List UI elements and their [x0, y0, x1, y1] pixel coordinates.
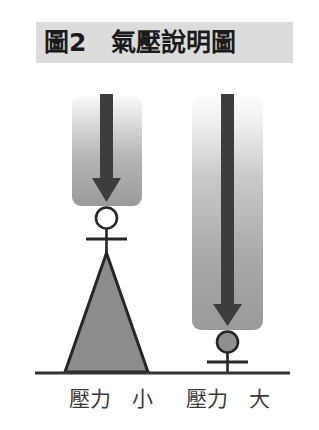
caption-right-pressure-large: 壓力 大 [168, 386, 288, 412]
left-panel-group [65, 94, 148, 372]
right-ball [217, 332, 238, 353]
figure-container: 圖2 氣壓說明圖 [0, 0, 319, 430]
left-ball [96, 208, 117, 229]
diagram-canvas [0, 0, 319, 430]
left-triangle-support [65, 253, 148, 372]
right-panel-group [192, 94, 263, 373]
caption-left-pressure-small: 壓力 小 [56, 386, 166, 412]
